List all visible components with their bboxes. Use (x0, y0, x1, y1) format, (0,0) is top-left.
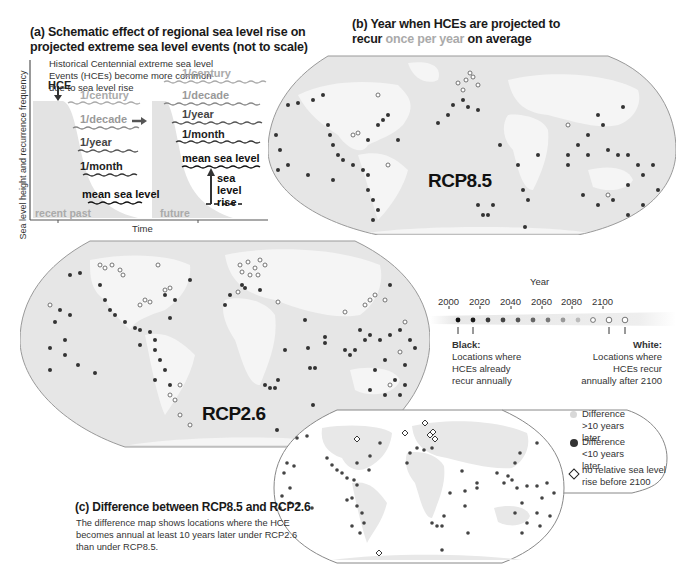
legend-gt10-line1: Difference (582, 408, 625, 420)
rise-word-1: sea (217, 172, 241, 184)
panel-b-title: (b) Year when HCEs are projected to recu… (352, 17, 560, 47)
black-heading: Black: (452, 339, 521, 351)
right-level-month: 1/month (182, 128, 225, 140)
left-level-century: 1/century (80, 89, 129, 101)
left-level-msl: mean sea level (82, 188, 160, 200)
year-legend-title: Year (530, 276, 549, 287)
panel-a-title: (a) Schematic effect of regional sea lev… (30, 25, 308, 55)
left-level-year: 1/year (80, 136, 112, 148)
map-rcp85 (268, 55, 676, 235)
legend-lt10-line1: Difference (582, 436, 625, 448)
right-level-msl: mean sea level (182, 152, 260, 164)
panel-c-desc-line1: The difference map shows locations where… (76, 517, 297, 529)
right-level-decade: 1/decade (182, 89, 229, 101)
panel-a-title-line2: projected extreme sea level events (not … (30, 40, 308, 55)
title-part-on-average: on average (464, 32, 531, 46)
panel-b-title-line1: (b) Year when HCEs are projected to (352, 17, 560, 32)
legend-no-rise-line1: no relative sea level (582, 464, 676, 476)
white-text-2: HCEs recur (560, 363, 662, 375)
right-level-century: 1/century (182, 67, 231, 79)
recent-past-label: recent past (35, 207, 91, 219)
title-part-recur: recur (352, 32, 386, 46)
title-part-once-per-year: once per year (386, 32, 465, 46)
rise-word-3: rise (217, 196, 241, 208)
year-legend-bar (430, 306, 676, 340)
panel-b-title-line2: recur once per year on average (352, 32, 560, 47)
black-text-2: HCEs already (452, 363, 521, 375)
dark-dot-icon (570, 439, 578, 447)
white-heading: White: (560, 339, 662, 351)
legend-no-rise-text: no relative sea level rise before 2100 (582, 464, 676, 488)
light-dot-icon (570, 411, 577, 418)
black-text-3: recur annually (452, 375, 521, 387)
white-text-1: Locations where (560, 351, 662, 363)
panel-c-description: The difference map shows locations where… (76, 517, 297, 553)
panel-c-desc-line3: than under RCP8.5. (76, 541, 297, 553)
left-level-month: 1/month (80, 160, 123, 172)
white-legend: White: Locations where HCEs recur annual… (560, 339, 662, 387)
x-axis-label: Time (132, 223, 153, 234)
panel-a-title-line1: (a) Schematic effect of regional sea lev… (30, 25, 308, 40)
legend-no-rise-line2: rise before 2100 (582, 476, 676, 488)
sea-level-rise-label: sea level rise (217, 172, 241, 208)
white-text-3: annually after 2100 (560, 375, 662, 387)
left-level-decade: 1/decade (80, 113, 127, 125)
y-axis-label: Sea level height and recurrence frequenc… (18, 70, 28, 240)
black-legend: Black: Locations where HCEs already recu… (452, 339, 521, 387)
right-level-year: 1/year (182, 108, 214, 120)
hce-label: HCE (48, 79, 71, 91)
rcp85-label: RCP8.5 (428, 170, 492, 192)
panel-c-title: (c) Difference between RCP8.5 and RCP2.6 (75, 500, 310, 515)
rcp26-label: RCP2.6 (202, 403, 266, 425)
future-label: future (160, 207, 190, 219)
black-text-1: Locations where (452, 351, 521, 363)
panel-c-desc-line2: becomes annual at least 10 years later u… (76, 529, 297, 541)
rise-word-2: level (217, 184, 241, 196)
